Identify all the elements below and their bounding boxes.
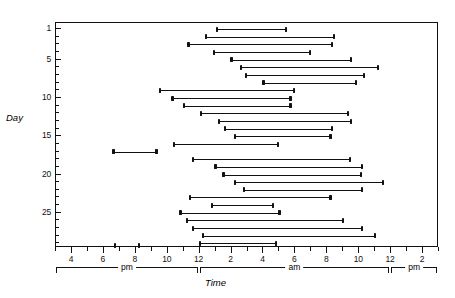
y-tick bbox=[55, 242, 59, 243]
y-tick-label: 15 bbox=[29, 130, 51, 140]
interval-bar bbox=[184, 106, 291, 107]
interval-end-cap bbox=[333, 34, 335, 39]
interval-end-cap bbox=[277, 142, 279, 147]
x-tick bbox=[262, 247, 263, 253]
y-tick bbox=[55, 51, 59, 52]
x-tick bbox=[422, 247, 423, 253]
x-tick bbox=[390, 247, 391, 253]
period-bracket-label: pm bbox=[118, 262, 136, 272]
interval-end-cap bbox=[275, 241, 277, 246]
y-tick bbox=[55, 112, 59, 113]
interval-start-cap bbox=[202, 233, 204, 238]
x-tick bbox=[71, 247, 72, 253]
interval-bar bbox=[180, 213, 279, 214]
y-tick-label: 1 bbox=[29, 23, 51, 33]
interval-end-cap bbox=[361, 226, 363, 231]
y-tick bbox=[55, 212, 61, 213]
interval-bar bbox=[212, 205, 273, 206]
interval-start-cap bbox=[189, 195, 191, 200]
interval-start-cap bbox=[114, 243, 116, 248]
y-tick bbox=[55, 82, 59, 83]
x-tick bbox=[310, 247, 311, 251]
x-tick-label: 6 bbox=[101, 254, 106, 264]
interval-bar bbox=[216, 167, 363, 168]
y-axis-title: Day bbox=[6, 112, 23, 123]
interval-bar bbox=[235, 182, 383, 183]
interval-start-cap bbox=[222, 172, 224, 177]
y-tick bbox=[55, 74, 59, 75]
interval-bar bbox=[174, 144, 278, 145]
y-tick bbox=[55, 196, 59, 197]
period-bracket: am bbox=[200, 267, 390, 273]
interval-end-cap bbox=[347, 111, 349, 116]
interval-bar bbox=[160, 90, 294, 91]
y-tick bbox=[55, 174, 61, 175]
interval-start-cap bbox=[214, 164, 216, 169]
x-tick bbox=[342, 247, 343, 251]
interval-end-cap bbox=[350, 57, 352, 62]
y-tick bbox=[55, 158, 59, 159]
interval-start-cap bbox=[218, 119, 220, 124]
interval-bar bbox=[235, 136, 331, 137]
interval-start-cap bbox=[192, 226, 194, 231]
x-tick bbox=[358, 247, 359, 253]
interval-bar bbox=[172, 98, 290, 99]
interval-start-cap bbox=[159, 88, 161, 93]
y-tick bbox=[55, 219, 59, 220]
x-tick-label: 4 bbox=[260, 254, 265, 264]
interval-end-cap bbox=[360, 172, 362, 177]
interval-bar bbox=[200, 243, 277, 244]
interval-bar bbox=[206, 37, 334, 38]
interval-end-cap bbox=[363, 73, 365, 78]
interval-start-cap bbox=[171, 96, 173, 101]
interval-start-cap bbox=[186, 218, 188, 223]
x-tick bbox=[215, 247, 216, 251]
interval-end-cap bbox=[355, 80, 357, 85]
x-tick bbox=[406, 247, 407, 251]
interval-start-cap bbox=[216, 27, 218, 32]
interval-bar bbox=[263, 83, 356, 84]
plot-area bbox=[55, 22, 438, 247]
y-tick bbox=[55, 89, 59, 90]
interval-start-cap bbox=[179, 210, 181, 215]
chart-figure: Day 4681012246810122 1510152025 pmampm T… bbox=[0, 0, 455, 298]
x-tick bbox=[199, 247, 200, 253]
interval-end-cap bbox=[374, 233, 376, 238]
interval-end-cap bbox=[289, 103, 291, 108]
interval-start-cap bbox=[199, 241, 201, 246]
x-tick bbox=[326, 247, 327, 253]
interval-start-cap bbox=[240, 65, 242, 70]
interval-start-cap bbox=[234, 134, 236, 139]
interval-end-cap bbox=[350, 119, 352, 124]
interval-end-cap bbox=[377, 65, 379, 70]
interval-end-cap bbox=[278, 210, 280, 215]
x-tick-label: 12 bbox=[194, 254, 203, 264]
interval-end-cap bbox=[293, 88, 295, 93]
interval-end-cap bbox=[342, 218, 344, 223]
x-axis-title: Time bbox=[205, 277, 226, 288]
interval-end-cap bbox=[289, 96, 291, 101]
interval-end-cap bbox=[285, 27, 287, 32]
interval-bar bbox=[203, 236, 375, 237]
interval-start-cap bbox=[245, 73, 247, 78]
x-tick bbox=[183, 247, 184, 251]
y-tick bbox=[55, 204, 59, 205]
x-tick-label: 10 bbox=[354, 254, 363, 264]
interval-bar bbox=[246, 75, 364, 76]
period-bracket-label: pm bbox=[405, 262, 423, 272]
interval-start-cap bbox=[224, 126, 226, 131]
period-bracket: pm bbox=[56, 267, 198, 273]
y-tick bbox=[55, 66, 59, 67]
y-tick bbox=[55, 59, 61, 60]
y-tick bbox=[55, 143, 59, 144]
interval-bar bbox=[190, 197, 330, 198]
x-tick-label: 4 bbox=[69, 254, 74, 264]
interval-bar bbox=[187, 220, 343, 221]
y-tick-label: 5 bbox=[29, 54, 51, 64]
x-tick-label: 10 bbox=[162, 254, 171, 264]
x-tick bbox=[231, 247, 232, 253]
x-tick bbox=[294, 247, 295, 253]
x-tick bbox=[87, 247, 88, 251]
y-tick bbox=[55, 189, 59, 190]
y-tick bbox=[55, 36, 59, 37]
